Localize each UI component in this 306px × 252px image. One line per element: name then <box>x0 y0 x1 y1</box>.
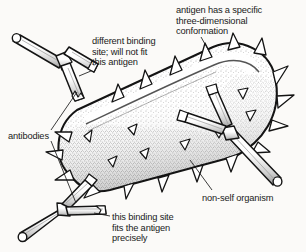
antibody-top-left <box>12 34 98 101</box>
label-antibodies: antibodies <box>8 131 49 142</box>
label-different-binding-site: different binding site; will not fit thi… <box>92 36 155 68</box>
antibody-antigen-figure: antigen has a specific three-dimensional… <box>0 0 306 252</box>
antibody-bottom-left <box>18 174 106 242</box>
label-antigen-conformation: antigen has a specific three-dimensional… <box>176 5 262 37</box>
label-nonself-organism: non-self organism <box>202 193 273 204</box>
leader-different-binding <box>79 71 91 76</box>
label-binding-site-fits: this binding site fits the antigen preci… <box>112 212 174 244</box>
